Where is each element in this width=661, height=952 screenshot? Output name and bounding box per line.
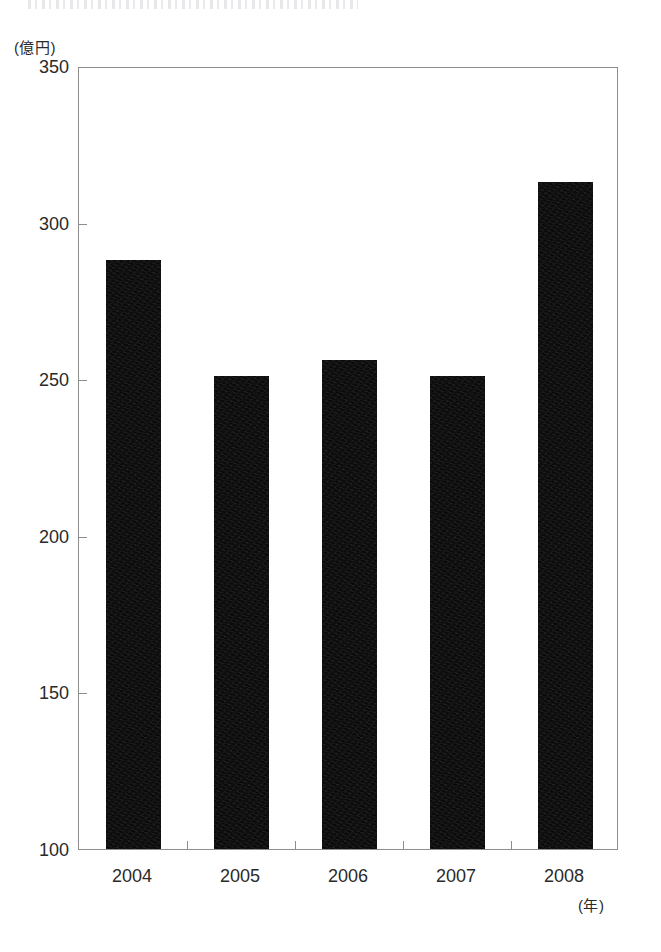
bar-2008: [538, 182, 593, 849]
x-axis-tick-mark: [403, 841, 404, 850]
y-axis-tick-mark: [79, 380, 87, 381]
y-axis-tick-mark: [79, 537, 87, 538]
y-axis-tick-mark: [79, 850, 87, 851]
x-axis-tick-mark: [187, 841, 188, 850]
y-axis-tick-label: 300: [39, 214, 69, 234]
x-axis-label-2008: 2008: [514, 866, 614, 886]
bar-2006: [322, 360, 377, 849]
y-axis-tick-mark: [79, 67, 87, 68]
y-axis-tick-label: 150: [39, 683, 69, 703]
y-axis-tick-label: 100: [39, 840, 69, 860]
bar-2007: [430, 376, 485, 849]
y-axis-unit-label: (億円): [14, 36, 56, 57]
x-axis-label-2005: 2005: [190, 866, 290, 886]
x-axis-label-2006: 2006: [298, 866, 398, 886]
chart-plot-inner: 100150200250300350: [79, 68, 617, 849]
y-axis-tick-mark: [79, 693, 87, 694]
chart-plot-area: 100150200250300350: [78, 67, 618, 850]
x-axis-label-2007: 2007: [406, 866, 506, 886]
x-axis-tick-mark: [511, 841, 512, 850]
x-axis-tick-mark: [295, 841, 296, 850]
bar-2004: [106, 260, 161, 849]
y-axis-tick-mark: [79, 224, 87, 225]
y-axis-tick-label: 200: [39, 527, 69, 547]
scan-artifact-top-line: [28, 0, 358, 9]
y-axis-tick-label: 250: [39, 370, 69, 390]
bar-2005: [214, 376, 269, 849]
x-axis-label-2004: 2004: [82, 866, 182, 886]
y-axis-tick-label: 350: [39, 57, 69, 77]
x-axis-unit-label: (年): [578, 894, 605, 915]
